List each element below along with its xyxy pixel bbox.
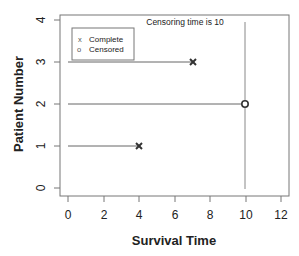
patient-lines (68, 62, 245, 146)
legend: x Complete o Censored (72, 28, 134, 60)
x-tick-label: 6 (172, 208, 179, 222)
x-tick-label: 10 (239, 208, 253, 222)
y-tick-label: 1 (34, 142, 48, 149)
x-axis-label: Survival Time (132, 233, 216, 248)
survival-chart: 0 1 2 3 4 0 2 4 6 8 10 12 Survival Time … (0, 0, 299, 256)
y-axis-label: Patient Number (11, 56, 26, 152)
x-axis (68, 196, 281, 202)
censored-marker (242, 101, 248, 107)
y-tick-label: 2 (34, 100, 48, 107)
legend-box (72, 28, 134, 60)
censoring-annotation: Censoring time is 10 (146, 17, 224, 27)
y-tick-labels: 0 1 2 3 4 (34, 16, 48, 191)
y-tick-label: 4 (34, 16, 48, 23)
y-tick-label: 0 (34, 184, 48, 191)
x-tick-label: 0 (65, 208, 72, 222)
x-tick-label: 2 (101, 208, 108, 222)
x-icon: x (78, 35, 82, 44)
y-tick-label: 3 (34, 58, 48, 65)
x-tick-labels: 0 2 4 6 8 10 12 (65, 208, 288, 222)
legend-label-complete: Complete (89, 35, 124, 44)
circle-icon: o (77, 45, 81, 54)
x-tick-label: 12 (274, 208, 288, 222)
y-axis (54, 20, 60, 188)
x-tick-label: 8 (207, 208, 214, 222)
legend-label-censored: Censored (89, 45, 124, 54)
x-tick-label: 4 (136, 208, 143, 222)
